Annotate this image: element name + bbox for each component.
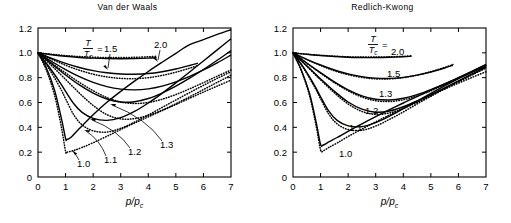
curve-label-1-1: 1.1 — [349, 122, 362, 133]
curve-label-1-0: 1.0 — [339, 148, 352, 159]
x-tick-label: 6 — [201, 181, 206, 192]
x-tick-label: 6 — [456, 181, 461, 192]
x-tick-label: 5 — [173, 181, 178, 192]
legend-numerator: T — [85, 38, 92, 48]
annotations-van-der-waals: TTc=1.52.01.01.11.21.3 — [72, 38, 173, 169]
curve-label-1-2: 1.2 — [365, 105, 378, 116]
legend-denominator: Tc — [84, 49, 94, 60]
x-tick-label: 0 — [290, 181, 295, 192]
x-tick-label: 1 — [318, 181, 323, 192]
panel-redlich-kwong: Redlich-Kwong 0123456700.20.40.60.81.01.… — [255, 0, 510, 223]
model-curve — [38, 39, 231, 121]
curve-label-1-5: 1.5 — [104, 43, 117, 54]
curve-label-1-5: 1.5 — [387, 68, 400, 79]
x-tick-label: 4 — [146, 181, 151, 192]
leader-arrowhead — [90, 119, 96, 121]
y-tick-label: 0.6 — [274, 97, 287, 108]
y-tick-label: 1.0 — [19, 47, 32, 58]
axes-redlich-kwong: 0123456700.20.40.60.81.01.2p/pc — [274, 23, 489, 209]
leader-line — [86, 131, 106, 156]
curve-label-1-3: 1.3 — [379, 88, 392, 99]
x-tick-label: 2 — [90, 181, 95, 192]
y-tick-label: 0.2 — [19, 147, 32, 158]
y-tick-label: 1.0 — [274, 47, 287, 58]
plot-redlich-kwong: 0123456700.20.40.60.81.01.2p/pc TTc=2.01… — [255, 0, 510, 223]
leader-arrowhead — [103, 65, 108, 70]
y-tick-label: 0.2 — [274, 147, 287, 158]
x-tick-label: 0 — [35, 181, 40, 192]
legend-denominator: Tc — [369, 45, 379, 56]
leader-arrowhead — [110, 104, 116, 106]
y-tick-label: 0 — [27, 172, 32, 183]
y-tick-label: 0.8 — [19, 72, 32, 83]
y-tick-label: 1.2 — [274, 23, 287, 34]
curve-label-2-0: 2.0 — [391, 46, 404, 57]
x-tick-label: 3 — [118, 181, 123, 192]
y-tick-label: 0.8 — [274, 72, 287, 83]
annotations-redlich-kwong: TTc=2.01.51.31.21.11.0 — [339, 34, 404, 159]
curves-van-der-waals — [38, 30, 231, 154]
x-tick-label: 4 — [401, 181, 406, 192]
legend-equals: = — [382, 39, 388, 50]
x-tick-label: 3 — [373, 181, 378, 192]
legend-equals: = — [97, 43, 103, 54]
compressibility-factor-figure: Van der Waals 0123456700.20.40.60.81.01.… — [0, 0, 511, 223]
plot-van-der-waals: 0123456700.20.40.60.81.01.2p/pc TTc=1.52… — [0, 0, 255, 223]
data-curve — [38, 53, 231, 154]
y-tick-label: 1.2 — [19, 23, 32, 34]
y-tick-label: 0.4 — [19, 122, 32, 133]
x-tick-label: 7 — [483, 181, 488, 192]
x-axis-label: p/pc — [380, 196, 399, 209]
x-tick-label: 1 — [63, 181, 68, 192]
x-tick-label: 2 — [345, 181, 350, 192]
y-tick-label: 0.4 — [274, 122, 287, 133]
y-tick-label: 0 — [282, 172, 287, 183]
legend-numerator: T — [370, 34, 377, 44]
x-tick-label: 5 — [428, 181, 433, 192]
x-axis-label: p/pc — [125, 196, 144, 209]
leader-line — [158, 50, 160, 60]
data-curve — [38, 53, 198, 79]
curve-label-2-0: 2.0 — [154, 39, 167, 50]
leader-line — [108, 54, 110, 68]
y-tick-label: 0.6 — [19, 97, 32, 108]
panel-van-der-waals: Van der Waals 0123456700.20.40.60.81.01.… — [0, 0, 255, 223]
x-tick-label: 7 — [228, 181, 233, 192]
